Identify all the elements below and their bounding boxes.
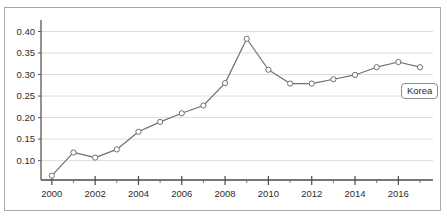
data-point-marker bbox=[158, 119, 163, 124]
data-point-marker bbox=[71, 150, 76, 155]
y-tick-label: 0.15 bbox=[17, 133, 36, 144]
data-point-marker bbox=[114, 147, 119, 152]
cropped-caption-fragment bbox=[0, 0, 447, 6]
x-tick-label: 2004 bbox=[128, 188, 149, 199]
data-point-marker bbox=[266, 67, 271, 72]
data-point-marker bbox=[352, 72, 357, 77]
x-tick-label: 2000 bbox=[41, 188, 62, 199]
data-point-marker bbox=[201, 103, 206, 108]
data-point-marker bbox=[417, 65, 422, 70]
x-tick-label: 2012 bbox=[301, 188, 322, 199]
x-tick-label: 2016 bbox=[388, 188, 409, 199]
x-tick-label: 2006 bbox=[171, 188, 192, 199]
data-point-marker bbox=[244, 36, 249, 41]
legend-label-korea: Korea bbox=[401, 83, 438, 99]
x-tick-label: 2002 bbox=[85, 188, 106, 199]
data-point-marker bbox=[331, 77, 336, 82]
data-point-marker bbox=[396, 59, 401, 64]
y-tick-label: 0.25 bbox=[17, 90, 36, 101]
series-korea bbox=[49, 36, 422, 178]
x-tick-label: 2014 bbox=[344, 188, 365, 199]
data-point-marker bbox=[49, 173, 54, 178]
data-point-marker bbox=[222, 81, 227, 86]
data-point-marker bbox=[93, 155, 98, 160]
y-tick-label: 0.40 bbox=[17, 26, 36, 37]
data-point-marker bbox=[309, 81, 314, 86]
data-point-marker bbox=[287, 81, 292, 86]
line-chart-svg: 0.100.150.200.250.300.350.40 20002002200… bbox=[5, 8, 440, 210]
series-line bbox=[52, 39, 420, 176]
y-axis-ticks: 0.100.150.200.250.300.350.40 bbox=[17, 26, 42, 166]
y-tick-label: 0.30 bbox=[17, 69, 36, 80]
data-point-marker bbox=[136, 129, 141, 134]
chart-frame: 0.100.150.200.250.300.350.40 20002002200… bbox=[4, 7, 441, 211]
x-tick-label: 2010 bbox=[258, 188, 279, 199]
y-tick-label: 0.10 bbox=[17, 155, 36, 166]
y-tick-label: 0.35 bbox=[17, 47, 36, 58]
data-point-marker bbox=[179, 111, 184, 116]
data-point-marker bbox=[374, 65, 379, 70]
x-tick-label: 2008 bbox=[215, 188, 236, 199]
grid-lines bbox=[41, 31, 433, 160]
y-tick-label: 0.20 bbox=[17, 112, 36, 123]
chart-page: 0.100.150.200.250.300.350.40 20002002200… bbox=[0, 0, 447, 221]
